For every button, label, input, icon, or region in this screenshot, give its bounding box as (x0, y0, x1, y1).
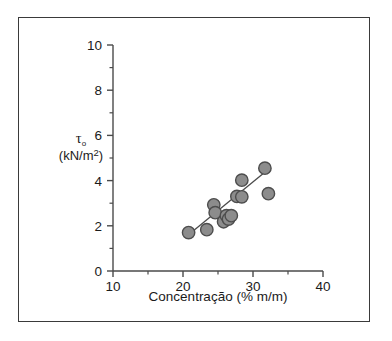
svg-text:(kN/m2): (kN/m2) (59, 147, 103, 163)
y-tick-label: 8 (94, 83, 102, 98)
data-point-marker (225, 209, 237, 221)
y-axis-units-close: ) (99, 148, 103, 163)
data-points (182, 162, 274, 239)
data-point-marker (182, 226, 194, 238)
data-point-marker (259, 162, 271, 174)
data-point-marker (262, 188, 274, 200)
scatter-plot-canvas: 10203040 0246810 Concentração (% m/m) τo… (0, 0, 392, 341)
data-point-marker (236, 174, 248, 186)
y-tick-label: 6 (94, 128, 102, 143)
y-tick-label: 4 (94, 174, 102, 189)
axis-lines (113, 45, 323, 271)
figure-root: 10203040 0246810 Concentração (% m/m) τo… (0, 0, 392, 341)
x-tick-label: 10 (105, 279, 120, 294)
x-axis-title: Concentração (% m/m) (149, 289, 288, 304)
svg-text:τo: τo (76, 130, 87, 148)
y-tick-label: 0 (94, 264, 102, 279)
x-tick-label: 40 (315, 279, 330, 294)
y-axis-units: (kN/m (59, 148, 94, 163)
tau-subscript: o (82, 139, 87, 148)
data-point-marker (201, 223, 213, 235)
y-tick-label: 10 (87, 38, 102, 53)
y-tick-label: 2 (94, 219, 102, 234)
data-point-marker (236, 191, 248, 203)
x-axis-ticks (113, 271, 323, 277)
y-axis-ticks (107, 45, 113, 271)
